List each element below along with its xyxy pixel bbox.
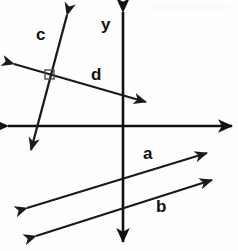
line-d-label: d: [91, 66, 101, 83]
line-b-label: b: [156, 198, 166, 215]
line-c-label: c: [36, 26, 45, 43]
line-a: [27, 153, 207, 208]
y-axis-label: y: [101, 16, 110, 33]
line-a-label: a: [143, 145, 152, 162]
line-d: [14, 64, 146, 102]
geometry-diagram: y c d a b: [0, 0, 238, 251]
